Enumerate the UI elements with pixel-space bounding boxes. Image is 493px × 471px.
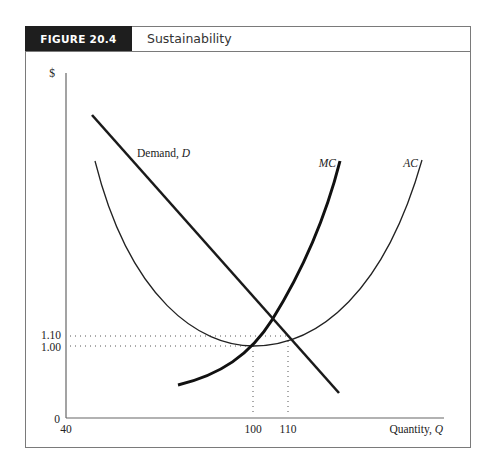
y-axis-label: $ [49, 67, 55, 79]
demand-label-variable: D [181, 147, 191, 159]
guide-lines [70, 336, 288, 416]
mc-label: MC [318, 157, 337, 169]
ac-curve [95, 160, 422, 346]
ac-label: AC [402, 157, 418, 169]
x-tick-100: 100 [244, 423, 262, 435]
mc-curve [178, 161, 340, 385]
demand-label: Demand, D [137, 147, 191, 160]
x-tick-110: 110 [280, 423, 297, 435]
y-tick-1.00: 1.00 [41, 341, 61, 353]
y-tick-1.10: 1.10 [41, 329, 61, 341]
x-axis-label: Quantity, Q [389, 423, 443, 436]
demand-label-text: Demand, [137, 147, 182, 160]
x-axis-variable: Q [435, 423, 444, 435]
x-tick-40: 40 [60, 423, 72, 435]
x-axis-label-text: Quantity, [389, 423, 434, 436]
chart-canvas: $ 1.10 1.00 0 40 100 110 Quantity, Q Dem… [0, 0, 493, 471]
